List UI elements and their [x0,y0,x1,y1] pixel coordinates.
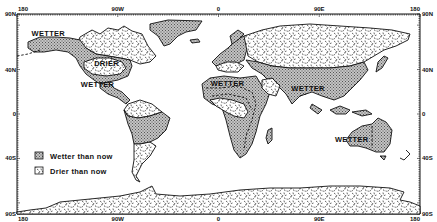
top-axis-label: 180 [410,6,421,12]
region-tasmania [380,156,386,160]
region-iceland [190,39,200,43]
left-axis-label: 0 [13,111,17,117]
legend: Wetter than now Drier than now [35,152,113,176]
bottom-axis-label: 0 [217,216,221,222]
region-label-wetter: WETTER [335,135,369,144]
top-axis-label: 90E [314,6,325,12]
wetter-swatch-icon [35,152,43,159]
top-axis-label: 90W [112,6,125,12]
bottom-axis-label: 90W [112,216,125,222]
region-label-wetter: WETTER [211,79,245,88]
right-axis-label: 40S [422,155,433,161]
region-south-america-drier-south [132,142,156,182]
bottom-axis-label: 90E [314,216,325,222]
top-axis-label: 180 [18,6,29,12]
left-axis-label: 90N [5,11,16,17]
bottom-axis-label: 180 [18,216,29,222]
region-label-wetter: WETTER [291,84,325,93]
right-axis-label: 40N [422,67,433,73]
right-axis-label: 90N [422,11,433,17]
right-axis-label: 0 [422,111,426,117]
region-antarctica-drier [17,186,420,214]
region-new-zealand [400,150,410,160]
region-japan [376,56,388,72]
region-label-wetter: WETTER [32,29,66,38]
region-label-drier: DRIER [94,59,119,68]
land-masses [17,20,420,214]
left-axis-label: 40N [5,67,16,73]
region-indonesia [310,104,372,116]
legend-item-drier: Drier than now [35,167,107,176]
paleoclimate-world-map: WETTERDRIERWETTERWETTERWETTERWETTER 1809… [0,0,437,222]
legend-label-drier: Drier than now [50,167,107,176]
top-axis-label: 0 [217,6,221,12]
left-axis-label: 90S [5,211,16,217]
legend-label-wetter: Wetter than now [50,152,113,161]
left-axis-label: 40S [5,155,16,161]
legend-item-wetter: Wetter than now [35,152,113,161]
region-madagascar [266,128,272,144]
region-label-wetter: WETTER [81,80,115,89]
bottom-axis-label: 180 [410,216,421,222]
right-axis-label: 90S [422,211,433,217]
drier-swatch-icon [35,167,43,174]
